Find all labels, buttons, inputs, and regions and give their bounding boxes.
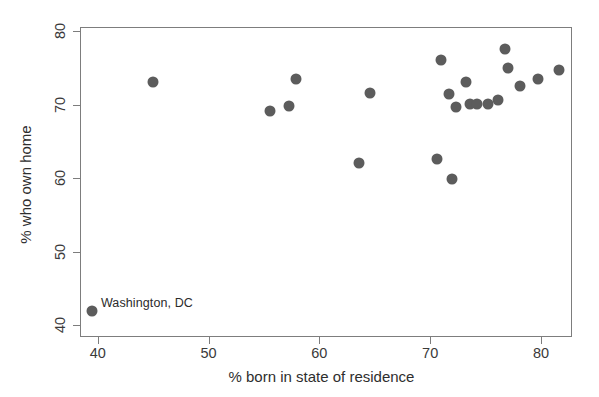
- x-axis-tick-label: 40: [90, 345, 106, 361]
- y-axis-tick-label: 60: [52, 170, 68, 186]
- x-axis-tick: [209, 337, 210, 344]
- x-axis-label: % born in state of residence: [0, 368, 599, 385]
- data-point: [431, 153, 442, 164]
- x-axis-tick: [98, 337, 99, 344]
- data-point: [87, 305, 98, 316]
- data-point: [284, 100, 295, 111]
- data-point: [514, 81, 525, 92]
- plot-area-frame: Washington, DC: [80, 27, 572, 337]
- x-axis-tick-label: 80: [533, 345, 549, 361]
- x-axis-tick-label: 50: [200, 345, 216, 361]
- data-point: [532, 74, 543, 85]
- y-axis-tick-label: 80: [52, 23, 68, 39]
- y-axis-tick-label: 70: [52, 97, 68, 113]
- y-axis-tick: [73, 325, 80, 326]
- data-point: [553, 64, 564, 75]
- data-point: [148, 77, 159, 88]
- data-points-layer: Washington, DC: [81, 28, 571, 336]
- y-axis-tick: [73, 31, 80, 32]
- y-axis-label: % who own home: [14, 0, 36, 397]
- x-axis-tick-label: 70: [422, 345, 438, 361]
- y-axis-tick: [73, 105, 80, 106]
- data-point: [492, 94, 503, 105]
- x-axis-tick: [430, 337, 431, 344]
- data-point: [450, 101, 461, 112]
- data-point: [365, 87, 376, 98]
- y-axis-tick: [73, 178, 80, 179]
- data-point: [290, 74, 301, 85]
- data-point: [471, 99, 482, 110]
- data-point: [447, 174, 458, 185]
- point-annotation-label: Washington, DC: [101, 296, 193, 310]
- y-axis-label-text: % who own home: [17, 125, 34, 243]
- data-point: [354, 158, 365, 169]
- data-point: [443, 89, 454, 100]
- x-axis-tick: [319, 337, 320, 344]
- x-axis-tick-label: 60: [311, 345, 327, 361]
- data-point: [502, 63, 513, 74]
- y-axis-tick-label: 50: [52, 244, 68, 260]
- x-axis-label-text: % born in state of residence: [185, 368, 415, 385]
- scatter-plot-figure: Washington, DC 40506070804050607080 % bo…: [0, 0, 599, 397]
- data-point: [500, 43, 511, 54]
- data-point: [460, 76, 471, 87]
- data-point: [265, 106, 276, 117]
- y-axis-tick-label: 40: [52, 317, 68, 333]
- y-axis-tick: [73, 252, 80, 253]
- x-axis-tick: [541, 337, 542, 344]
- data-point: [436, 54, 447, 65]
